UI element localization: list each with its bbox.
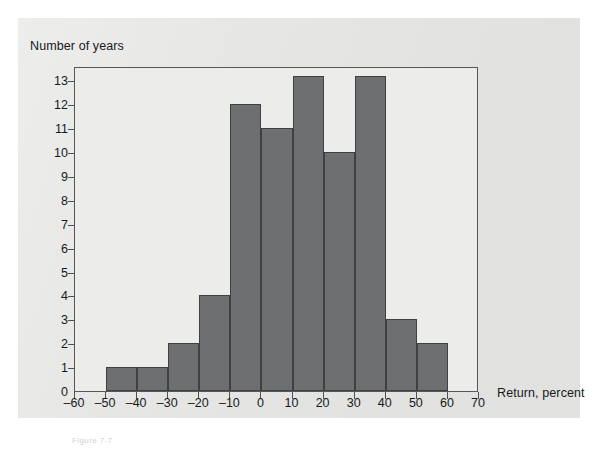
plot-area bbox=[74, 67, 478, 392]
y-axis-tick-label: 9 bbox=[42, 170, 68, 184]
y-axis-tick-label: 5 bbox=[42, 266, 68, 280]
y-axis-tick-label: 3 bbox=[42, 313, 68, 327]
y-axis-tick-label: 8 bbox=[42, 194, 68, 208]
histogram-bars bbox=[75, 68, 477, 391]
y-axis-tick-label: 4 bbox=[42, 289, 68, 303]
x-axis-title: Return, percent bbox=[497, 386, 585, 400]
scanned-page: Number of years Return, percent 01234567… bbox=[0, 0, 598, 455]
histogram-bar bbox=[417, 343, 448, 391]
histogram-bar bbox=[168, 343, 199, 391]
histogram-bar bbox=[293, 76, 324, 391]
y-axis-tick-label: 6 bbox=[42, 242, 68, 256]
y-axis-tick-label: 10 bbox=[42, 146, 68, 160]
y-axis-title: Number of years bbox=[30, 39, 124, 53]
histogram-bar bbox=[355, 76, 386, 391]
y-axis-tick-label: 7 bbox=[42, 218, 68, 232]
histogram-figure: Number of years Return, percent 01234567… bbox=[0, 0, 598, 455]
y-axis-tick-label: 12 bbox=[42, 98, 68, 112]
y-axis-tick-label: 1 bbox=[42, 361, 68, 375]
histogram-bar bbox=[199, 295, 230, 391]
histogram-bar bbox=[261, 128, 292, 391]
histogram-bar bbox=[386, 319, 417, 391]
histogram-bar bbox=[137, 367, 168, 391]
y-axis-tick-label: 11 bbox=[42, 122, 68, 136]
histogram-bar bbox=[324, 152, 355, 391]
x-axis-tick-label: 70 bbox=[458, 396, 498, 410]
histogram-bar bbox=[106, 367, 137, 391]
y-axis-tick-label: 13 bbox=[42, 74, 68, 88]
y-axis-tick-label: 2 bbox=[42, 337, 68, 351]
histogram-bar bbox=[230, 104, 261, 391]
figure-caption: Figure 7-7 bbox=[72, 436, 112, 445]
